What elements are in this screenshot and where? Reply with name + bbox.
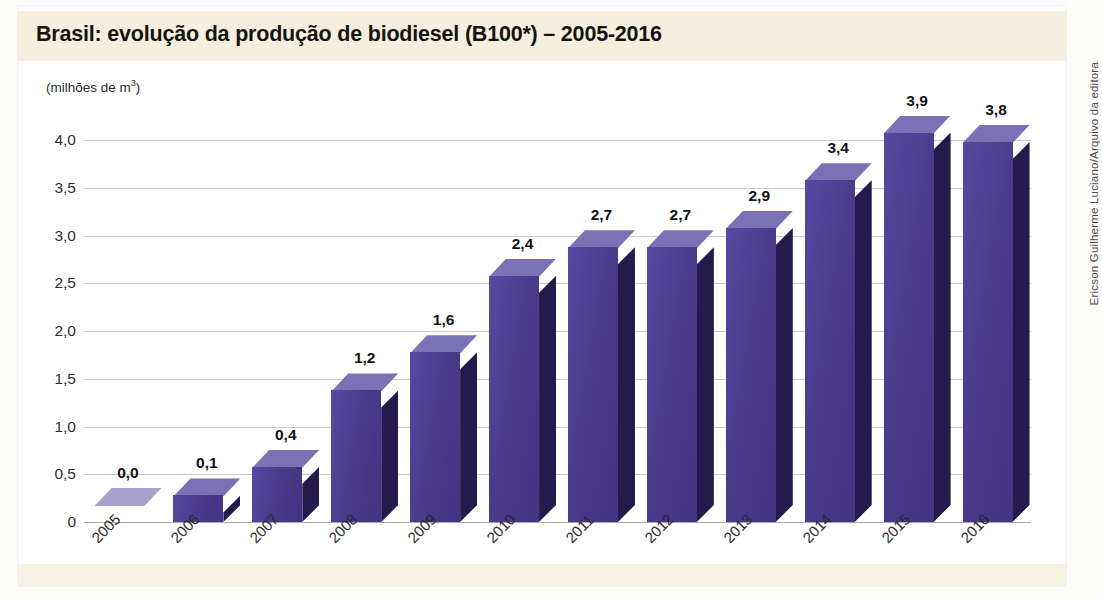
- bar-value-label: 3,4: [827, 139, 849, 157]
- bar-front-face: [489, 276, 539, 522]
- y-axis-tick-label: 3,0: [28, 227, 76, 245]
- bar-value-label: 1,6: [433, 311, 455, 329]
- y-axis-tick-label: 1,0: [28, 418, 76, 436]
- bar-value-label: 0,0: [117, 464, 139, 482]
- plot-area: 4,03,53,02,52,01,51,00,500,020050,120060…: [18, 6, 1066, 586]
- bar-side-face: [460, 352, 477, 522]
- bar-value-label: 0,1: [196, 454, 218, 472]
- bar-side-face: [1013, 142, 1030, 522]
- y-axis-tick-label: 0,5: [28, 465, 76, 483]
- y-axis-tick-label: 0: [28, 513, 76, 531]
- bar-side-face: [855, 180, 872, 522]
- page-background: Brasil: evolução da produção de biodiese…: [0, 0, 1102, 598]
- bar-top-face: [94, 488, 161, 506]
- bar-top-face: [647, 230, 714, 248]
- bar-value-label: 1,2: [354, 349, 376, 367]
- bar-front-face: [805, 180, 855, 522]
- bar-top-face: [331, 373, 398, 391]
- bar-value-label: 2,9: [749, 187, 771, 205]
- y-axis-tick-label: 2,5: [28, 274, 76, 292]
- bar-side-face: [697, 247, 714, 522]
- bar-side-face: [776, 228, 793, 522]
- bottom-band: [18, 564, 1066, 586]
- bar-top-face: [726, 211, 793, 229]
- bar-front-face: [252, 467, 302, 522]
- y-axis-tick-label: 1,5: [28, 370, 76, 388]
- bar-top-face: [489, 259, 556, 277]
- bar-top-face: [410, 335, 477, 353]
- image-credit: Ericson Guilherme Luciano/Arquivo da edi…: [1088, 62, 1100, 305]
- bar-side-face: [539, 276, 556, 522]
- x-axis-year-label: 2005: [88, 510, 124, 546]
- bar-value-label: 2,4: [512, 235, 534, 253]
- bar-front-face: [331, 390, 381, 522]
- bar-front-face: [568, 247, 618, 522]
- bar-value-label: 3,9: [906, 92, 928, 110]
- bar-value-label: 3,8: [985, 101, 1007, 119]
- bar-front-face: [410, 352, 460, 522]
- y-axis-tick-label: 3,5: [28, 179, 76, 197]
- bar-top-face: [252, 450, 319, 468]
- bar-front-face: [884, 133, 934, 522]
- bar-top-face: [173, 478, 240, 496]
- y-axis-tick-label: 4,0: [28, 131, 76, 149]
- bar-front-face: [963, 142, 1013, 522]
- bar-top-face: [884, 116, 951, 134]
- bar-value-label: 0,4: [275, 426, 297, 444]
- bar-value-label: 2,7: [591, 206, 613, 224]
- bar-side-face: [934, 133, 951, 522]
- y-axis-tick-label: 2,0: [28, 322, 76, 340]
- bar-top-face: [805, 163, 872, 181]
- bar-front-face: [726, 228, 776, 522]
- bar-side-face: [618, 247, 635, 522]
- bar-top-face: [568, 230, 635, 248]
- bar-value-label: 2,7: [670, 206, 692, 224]
- bar-side-face: [381, 390, 398, 522]
- chart-figure: Brasil: evolução da produção de biodiese…: [18, 6, 1066, 586]
- bar-side-face: [223, 495, 240, 522]
- bar-front-face: [647, 247, 697, 522]
